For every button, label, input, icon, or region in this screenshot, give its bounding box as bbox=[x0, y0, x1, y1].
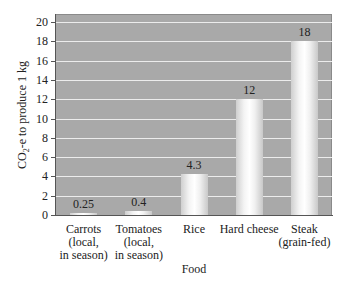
bar bbox=[70, 213, 97, 215]
y-axis-label-pre: CO bbox=[15, 152, 29, 169]
y-axis-label: CO2-e to produce 1 kg bbox=[15, 61, 31, 169]
bar-chart: 02468101214161820 0.250.44.31218 Carrots… bbox=[0, 0, 351, 283]
x-axis-label: Food bbox=[56, 262, 332, 277]
bar bbox=[291, 41, 318, 215]
y-tick-label: 4 bbox=[20, 170, 48, 182]
gridline bbox=[56, 22, 332, 23]
bar bbox=[236, 99, 263, 215]
bar-value-label: 0.4 bbox=[111, 196, 167, 208]
bar bbox=[181, 174, 208, 215]
bar-value-label: 4.3 bbox=[166, 159, 222, 171]
bar-value-label: 0.25 bbox=[56, 198, 112, 210]
x-axis-line bbox=[55, 215, 333, 216]
bar-value-label: 18 bbox=[276, 26, 332, 38]
bar bbox=[125, 211, 152, 215]
y-tick-label: 0 bbox=[20, 209, 48, 221]
y-tick-label: 2 bbox=[20, 190, 48, 202]
y-axis-label-sub: 2 bbox=[22, 148, 31, 152]
y-axis-line bbox=[55, 14, 56, 216]
y-axis-label-post: -e to produce 1 kg bbox=[15, 61, 29, 148]
bar-value-label: 12 bbox=[221, 84, 277, 96]
x-tick-label: Steak (grain-fed) bbox=[269, 223, 339, 249]
y-tick-label: 20 bbox=[20, 16, 48, 28]
y-tick-label: 18 bbox=[20, 35, 48, 47]
